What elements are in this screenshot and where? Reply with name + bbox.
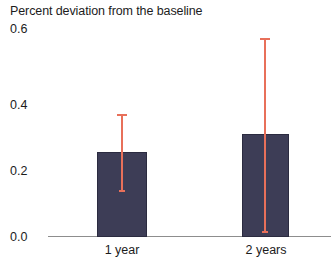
chart-title: Percent deviation from the baseline: [10, 4, 202, 19]
error-bar-cap-upper-2-years: [260, 38, 270, 40]
y-axis-tick-label-0.4: 0.4: [10, 98, 42, 112]
x-axis-label-1-year: 1 year: [82, 243, 162, 258]
y-axis-tick-label-0.6: 0.6: [10, 22, 42, 36]
error-bar-stem-2-years: [264, 39, 266, 232]
error-bar-cap-upper-1-year: [117, 114, 127, 116]
error-bar-cap-lower-1-year: [119, 190, 125, 192]
bar-chart: Percent deviation from the baseline 0.6 …: [0, 0, 332, 260]
error-bar-cap-lower-2-years: [262, 231, 268, 233]
y-axis-tick-label-0.0: 0.0: [10, 230, 42, 244]
y-axis-tick-label-0.2: 0.2: [10, 164, 42, 178]
error-bar-stem-1-year: [121, 115, 123, 191]
x-axis-label-2-years: 2 years: [226, 243, 306, 258]
